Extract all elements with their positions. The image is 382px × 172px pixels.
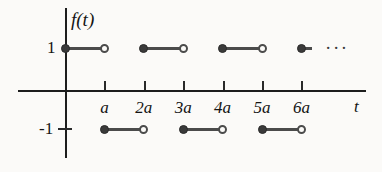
x-tick-4: [223, 81, 225, 90]
y-tick-negative-one: [58, 128, 72, 130]
y-tick-label-negative-one: -1: [39, 120, 53, 137]
square-wave-figure: a2a3a4a5a6a 1 -1 f(t) t ···: [0, 0, 382, 172]
segment-2-left-endpoint-closed-dot: [100, 125, 109, 134]
x-axis-title-t: t: [354, 98, 359, 115]
segment-4-left-endpoint-closed-dot: [179, 125, 188, 134]
segment-6-right-endpoint-open-dot: [297, 125, 306, 134]
x-tick-1: [104, 81, 106, 90]
x-axis: [18, 90, 366, 92]
wave-segment-6: [262, 128, 301, 131]
segment-5-left-endpoint-closed-dot: [218, 44, 227, 53]
y-axis: [65, 8, 67, 158]
x-tick-label-6: 6a: [285, 99, 317, 116]
segment-7-left-endpoint-closed-dot: [297, 44, 306, 53]
segment-3-right-endpoint-open-dot: [179, 44, 188, 53]
x-tick-label-3: 3a: [167, 99, 199, 116]
segment-4-right-endpoint-open-dot: [218, 125, 227, 134]
x-tick-label-5: 5a: [246, 99, 278, 116]
continuation-ellipsis: ···: [325, 38, 348, 57]
wave-segment-1: [65, 47, 104, 50]
wave-segment-4: [183, 128, 222, 131]
x-tick-2: [144, 81, 146, 90]
x-tick-label-2: 2a: [128, 99, 160, 116]
y-axis-title-ft: f(t): [71, 10, 94, 29]
segment-3-left-endpoint-closed-dot: [139, 44, 148, 53]
segment-6-left-endpoint-closed-dot: [258, 125, 267, 134]
x-tick-label-4: 4a: [207, 99, 239, 116]
segment-1-left-endpoint-closed-dot: [61, 44, 70, 53]
x-tick-label-1: a: [88, 99, 120, 116]
y-tick-label-positive-one: 1: [47, 39, 56, 56]
segment-5-right-endpoint-open-dot: [258, 44, 267, 53]
segment-1-right-endpoint-open-dot: [100, 44, 109, 53]
wave-segment-3: [144, 47, 183, 50]
x-tick-3: [183, 81, 185, 90]
segment-2-right-endpoint-open-dot: [139, 125, 148, 134]
wave-segment-2: [104, 128, 143, 131]
x-tick-6: [301, 81, 303, 90]
x-tick-5: [262, 81, 264, 90]
wave-segment-5: [223, 47, 262, 50]
